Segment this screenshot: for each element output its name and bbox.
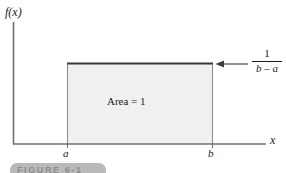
x-tick-label-b: b: [208, 148, 214, 159]
x-axis-label: x: [270, 134, 275, 146]
area-label: Area = 1: [107, 96, 146, 107]
density-height-annotation: 1 b – a: [250, 48, 284, 74]
figure-container: f(x) x a b Area = 1 1 b – a FIGURE 6-1: [0, 0, 286, 173]
arrow-left-icon: [216, 61, 225, 68]
denominator-term-a: a: [273, 62, 279, 74]
fraction-denominator: b – a: [250, 62, 284, 75]
x-tick-label-a: a: [63, 148, 69, 159]
denominator-operator: –: [262, 62, 273, 74]
figure-caption-banner: FIGURE 6-1: [10, 163, 106, 173]
figure-caption-text: FIGURE 6-1: [17, 165, 83, 173]
plot-canvas: [0, 0, 286, 173]
fraction-numerator: 1: [250, 48, 284, 61]
y-axis-label: f(x): [5, 6, 22, 18]
